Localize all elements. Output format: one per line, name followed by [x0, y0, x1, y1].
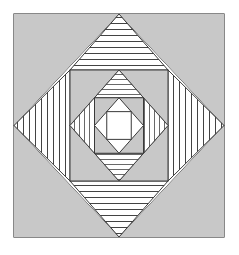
nested-diamond-square-figure	[0, 0, 239, 255]
center-square	[107, 112, 132, 140]
figure-root: Nested diamond-in-square quilt block	[0, 0, 239, 255]
